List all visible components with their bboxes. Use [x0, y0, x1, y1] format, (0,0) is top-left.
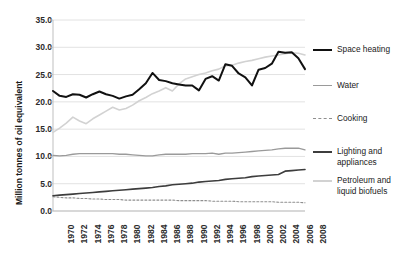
legend-label: Cooking	[337, 113, 367, 124]
legend-label: Lighting and appliances	[337, 146, 382, 167]
chart-container: Million tonnes of oil equivalent 35.030.…	[0, 0, 410, 259]
series-line	[53, 53, 305, 133]
legend-item[interactable]: Water	[313, 80, 359, 91]
legend-label: Petroleum and liquid biofuels	[337, 175, 391, 196]
series-line	[53, 148, 305, 156]
plot-area	[0, 0, 410, 259]
legend-swatch-icon	[313, 49, 332, 51]
legend-label: Space heating	[337, 44, 390, 55]
legend-swatch-icon	[313, 151, 332, 153]
series-line	[53, 52, 305, 99]
legend-swatch-icon	[313, 180, 332, 182]
series-line	[53, 197, 305, 203]
legend-item[interactable]: Petroleum and liquid biofuels	[313, 175, 391, 196]
legend-item[interactable]: Cooking	[313, 113, 367, 124]
legend-swatch-icon	[313, 118, 332, 119]
legend-item[interactable]: Space heating	[313, 44, 390, 55]
legend-swatch-icon	[313, 85, 332, 86]
legend-item[interactable]: Lighting and appliances	[313, 146, 382, 167]
legend-label: Water	[337, 80, 359, 91]
series-line	[53, 170, 305, 196]
